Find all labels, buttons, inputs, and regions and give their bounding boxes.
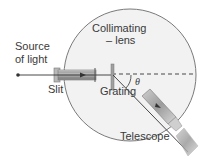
grating-label: Grating: [100, 85, 136, 97]
collimating-label-line1: Collimating: [92, 22, 146, 34]
theta-label: θ: [135, 76, 140, 88]
source-label: Source of light: [15, 40, 50, 65]
collimating-lens-label: Collimating – lens: [92, 22, 146, 46]
source-label-line1: Source: [15, 40, 50, 52]
telescope-label: Telescope: [120, 130, 170, 142]
collimating-label-line2: – lens: [106, 34, 146, 46]
slit-label: Slit: [48, 83, 63, 95]
source-label-line2: of light: [15, 53, 50, 65]
